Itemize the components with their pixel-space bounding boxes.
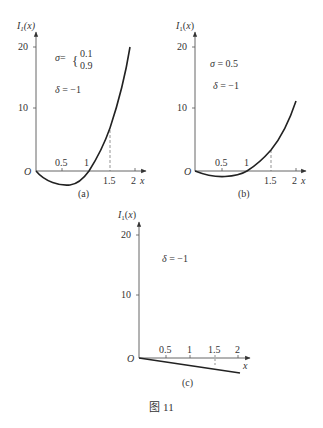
x-tick-1.5: 1.5 xyxy=(103,175,116,186)
y-tick-20: 20 xyxy=(18,41,28,52)
x-axis-label: x xyxy=(300,175,306,186)
panel-a: I1(x) 20 10 O 0.5 1 1.5 2 x σ= { 0.1 0.9… xyxy=(16,20,146,200)
brace-icon: { xyxy=(72,53,78,68)
x-tick-1.5: 1.5 xyxy=(264,175,277,186)
figure-canvas: I1(x) 20 10 O 0.5 1 1.5 2 x σ= { 0.1 0.9… xyxy=(0,0,323,428)
figure-caption: 图 11 xyxy=(0,398,323,414)
y-tick-20: 20 xyxy=(121,229,131,240)
x-tick-2: 2 xyxy=(235,344,240,355)
y-axis-label: I1(x) xyxy=(175,20,194,33)
x-tick-1: 1 xyxy=(84,157,89,168)
annotation-sigma: σ = 0.5 xyxy=(210,58,238,69)
y-tick-10: 10 xyxy=(177,102,187,113)
y-tick-20: 20 xyxy=(177,41,187,52)
y-axis-label: I1(x) xyxy=(117,209,136,222)
x-tick-2: 2 xyxy=(292,175,297,186)
annotation-delta: δ = −1 xyxy=(55,84,81,95)
x-tick-0.5: 0.5 xyxy=(159,344,172,355)
sigma-value-2: 0.9 xyxy=(80,60,93,71)
sigma-value-1: 0.1 xyxy=(80,48,93,59)
origin-label: O xyxy=(184,166,191,177)
origin-label: O xyxy=(24,166,31,177)
annotation-delta: δ = −1 xyxy=(162,253,188,264)
x-tick-0.5: 0.5 xyxy=(215,157,228,168)
line-c xyxy=(139,358,240,373)
y-tick-10: 10 xyxy=(121,289,131,300)
panel-c: I1(x) 20 10 O 0.5 1 1.5 2 x δ = −1 (c) xyxy=(117,209,250,389)
y-axis-label: I1(x) xyxy=(16,20,36,33)
x-axis-label: x xyxy=(242,360,248,371)
x-tick-1.5: 1.5 xyxy=(208,344,221,355)
annotation-sigma: σ= xyxy=(55,52,66,63)
y-tick-10: 10 xyxy=(18,102,28,113)
x-tick-1: 1 xyxy=(187,344,192,355)
x-axis-label: x xyxy=(139,175,145,186)
panel-label: (b) xyxy=(238,188,250,200)
x-tick-0.5: 0.5 xyxy=(55,157,68,168)
annotation-delta: δ = −1 xyxy=(213,80,239,91)
panel-b: I1(x) 20 10 O 0.5 1 1.5 2 x σ = 0.5 δ = … xyxy=(175,20,306,200)
panel-label: (a) xyxy=(78,188,89,200)
origin-label: O xyxy=(127,353,134,364)
x-tick-2: 2 xyxy=(131,175,136,186)
x-tick-1: 1 xyxy=(244,157,249,168)
panel-label: (c) xyxy=(182,377,193,389)
